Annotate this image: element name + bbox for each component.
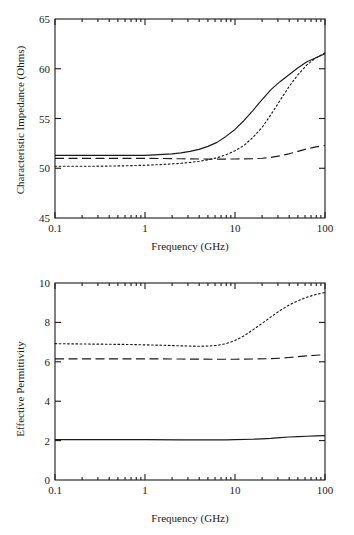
impedance-y-axis-title: Characteristic Impedance (Ohms)	[14, 45, 27, 194]
impedance-y-tick-label: 60	[39, 63, 51, 75]
permittivity-y-tick-label: 0	[45, 474, 51, 486]
impedance-plot-svg: 0.11101004550556065 Characteristic Imped…	[0, 0, 354, 262]
permittivity-series-dotted	[55, 292, 325, 346]
permittivity-y-tick-label: 8	[45, 316, 51, 328]
permittivity-y-axis-title: Effective Permittivity	[14, 341, 26, 437]
impedance-x-tick-label: 100	[317, 222, 334, 234]
impedance-y-tick-label: 55	[39, 113, 51, 125]
permittivity-y-tick-label: 10	[39, 277, 51, 289]
permittivity-x-tick-label: 1	[142, 484, 148, 496]
permittivity-y-tick-label: 2	[45, 435, 51, 447]
impedance-x-axis-title: Frequency (GHz)	[151, 240, 229, 253]
impedance-x-tick-label: 10	[230, 222, 242, 234]
permittivity-y-tick-label: 4	[45, 395, 51, 407]
impedance-y-tick-label: 50	[39, 162, 51, 174]
impedance-x-tick-label: 0.1	[48, 222, 62, 234]
permittivity-x-tick-label: 100	[317, 484, 334, 496]
figure-container: 0.11101004550556065 Characteristic Imped…	[0, 0, 354, 535]
impedance-y-tick-label: 45	[39, 212, 51, 224]
impedance-plot-frame	[55, 19, 325, 218]
chart-panel-permittivity: 0.11101000246810 Effective Permittivity …	[0, 264, 354, 535]
permittivity-axes-group: 0.11101000246810	[39, 277, 334, 496]
impedance-series-solid	[55, 54, 325, 155]
impedance-series-dotted	[55, 53, 325, 166]
impedance-axes-group: 0.11101004550556065	[39, 13, 334, 234]
permittivity-x-tick-label: 10	[230, 484, 242, 496]
permittivity-x-axis-title: Frequency (GHz)	[151, 512, 229, 525]
impedance-y-tick-label: 65	[39, 13, 51, 25]
permittivity-plot-frame	[55, 283, 325, 480]
permittivity-series-solid	[55, 436, 325, 440]
permittivity-series-dashed	[55, 355, 325, 360]
impedance-x-tick-label: 1	[142, 222, 148, 234]
chart-panel-impedance: 0.11101004550556065 Characteristic Imped…	[0, 0, 354, 262]
permittivity-plot-svg: 0.11101000246810 Effective Permittivity …	[0, 264, 354, 535]
permittivity-y-tick-label: 6	[45, 356, 51, 368]
impedance-series-dashed	[55, 145, 325, 159]
permittivity-x-tick-label: 0.1	[48, 484, 62, 496]
